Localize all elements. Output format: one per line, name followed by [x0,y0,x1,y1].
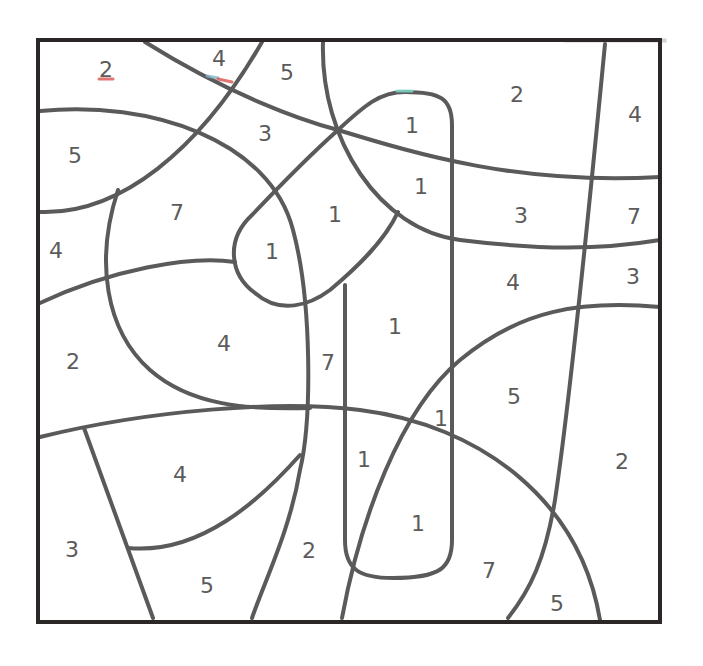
region-number-label: 4 [628,102,642,127]
region-number-label: 3 [65,537,79,562]
region-number-label: 3 [514,203,528,228]
region-number-label: 1 [411,511,425,536]
region-number-label: 1 [388,314,402,339]
region-number-label: 1 [265,239,279,264]
region-number-label: 7 [321,350,335,375]
region-number-label: 3 [626,264,640,289]
region-number-label: 2 [302,538,316,563]
region-number-label: 4 [506,270,520,295]
region-number-label: 1 [434,406,448,431]
region-number-label: 4 [212,46,226,71]
region-number-label: 7 [170,200,184,225]
region-number-label: 5 [550,591,564,616]
region-number-label: 1 [405,113,419,138]
region-number-label: 5 [200,573,214,598]
region-number-label: 2 [510,82,524,107]
region-number-label: 1 [357,447,371,472]
region-number-label: 3 [258,121,272,146]
region-number-label: 5 [68,143,82,168]
region-number-label: 1 [414,174,428,199]
region-number-label: 5 [507,384,521,409]
region-number-label: 7 [482,558,496,583]
color-by-number-puzzle: 24524531171374143142751124132755 [0,0,703,666]
region-number-label: 2 [615,449,629,474]
region-number-label: 5 [280,60,294,85]
region-number-label: 4 [49,238,63,263]
region-number-label: 2 [99,57,113,82]
region-number-label: 4 [173,462,187,487]
region-number-label: 1 [328,202,342,227]
region-number-label: 2 [66,349,80,374]
region-number-label: 4 [217,331,231,356]
region-number-label: 7 [627,204,641,229]
color-mark [207,76,218,78]
